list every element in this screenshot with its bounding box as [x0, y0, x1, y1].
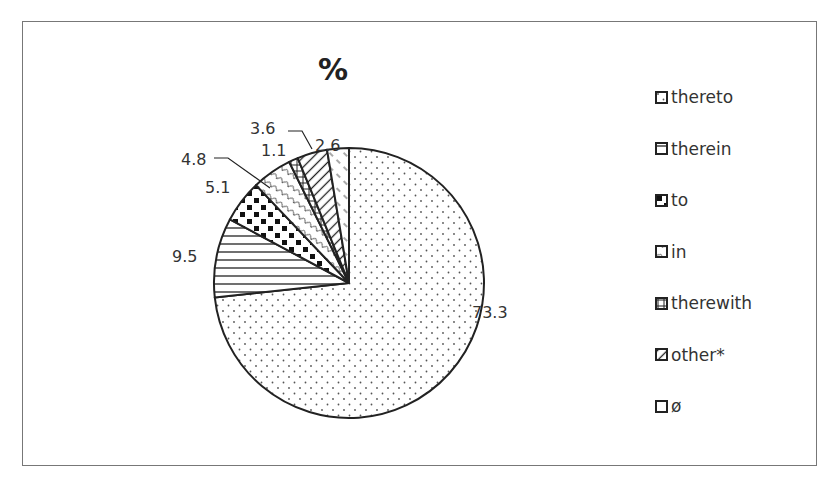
legend-item: therein [655, 140, 752, 158]
legend-label: thereto [671, 87, 733, 107]
legend-label: ø [671, 396, 681, 416]
legend-item: in [655, 243, 752, 261]
legend-item: other* [655, 346, 752, 364]
chart-title: % [318, 52, 348, 87]
legend-item: ø [655, 397, 752, 415]
legend-swatch [655, 194, 668, 207]
legend-item: thereto [655, 88, 752, 106]
data-label: 2.6 [315, 136, 340, 155]
legend-item: to [655, 191, 752, 209]
legend-label: to [671, 190, 688, 210]
data-label: 3.6 [250, 119, 275, 138]
data-label: 4.8 [181, 150, 206, 169]
legend-swatch [655, 142, 668, 155]
data-label: 9.5 [172, 247, 197, 266]
legend-swatch [655, 245, 668, 258]
legend-swatch [655, 400, 668, 413]
legend-item: therewith [655, 294, 752, 312]
legend-swatch [655, 297, 668, 310]
legend: theretothereintointherewithother*ø [655, 88, 752, 449]
data-label: 73.3 [472, 303, 508, 322]
legend-label: therewith [671, 293, 752, 313]
leader-line [288, 131, 312, 149]
caption-fragment [0, 478, 840, 491]
data-label: 1.1 [261, 141, 286, 160]
legend-swatch [655, 348, 668, 361]
legend-label: other* [671, 345, 725, 365]
legend-label: in [671, 242, 687, 262]
legend-swatch [655, 91, 668, 104]
data-label: 5.1 [205, 178, 230, 197]
legend-label: therein [671, 139, 731, 159]
